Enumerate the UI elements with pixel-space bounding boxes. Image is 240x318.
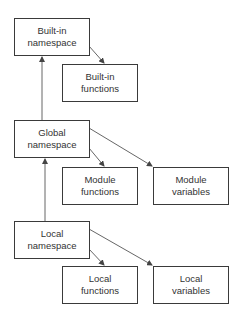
node-label-line2: functions: [81, 285, 119, 297]
arrow-local-ns-to-local-fn: [89, 249, 104, 265]
node-label-line2: functions: [81, 186, 119, 198]
node-label-line1: Module: [175, 174, 206, 186]
node-label-line2: variables: [172, 186, 210, 198]
local-variables-box: Local variables: [153, 266, 229, 304]
node-label-line1: Local: [180, 273, 203, 285]
global-namespace-box: Global namespace: [14, 120, 90, 158]
module-functions-box: Module functions: [62, 167, 138, 205]
builtin-functions-box: Built-in functions: [62, 64, 138, 102]
module-variables-box: Module variables: [153, 167, 229, 205]
namespace-diagram: Built-in namespace Built-in functions Gl…: [0, 0, 240, 318]
node-label-line2: functions: [81, 83, 119, 95]
node-label-line2: namespace: [27, 240, 76, 252]
arrow-global-ns-to-module-var: [89, 128, 152, 166]
local-functions-box: Local functions: [62, 266, 138, 304]
node-label-line2: namespace: [27, 37, 76, 49]
arrow-builtin-ns-to-builtin-fn: [89, 46, 104, 63]
node-label-line1: Local: [89, 273, 112, 285]
node-label-line1: Built-in: [37, 25, 66, 37]
node-label-line2: namespace: [27, 139, 76, 151]
builtin-namespace-box: Built-in namespace: [14, 18, 90, 56]
local-namespace-box: Local namespace: [14, 221, 90, 259]
node-label-line1: Built-in: [85, 71, 114, 83]
node-label-line1: Module: [84, 174, 115, 186]
node-label-line1: Local: [41, 228, 64, 240]
node-label-line1: Global: [38, 127, 65, 139]
arrow-global-ns-to-module-fn: [89, 148, 104, 166]
node-label-line2: variables: [172, 285, 210, 297]
